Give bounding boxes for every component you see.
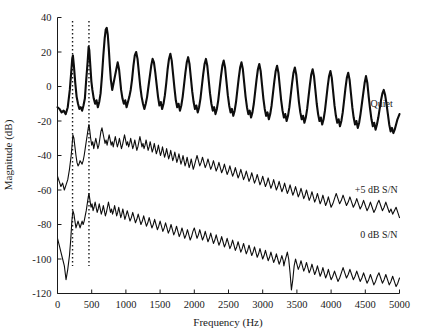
chart-canvas: 40200-20-40-60-80-100-120 05001000150020…: [0, 0, 437, 334]
trace-quiet: [58, 28, 400, 133]
trace-label-0: Quiet: [371, 98, 393, 109]
x-axis-ticks: 0500100015002000250030003500400045005000: [55, 290, 410, 310]
y-tick-label: -60: [38, 185, 52, 196]
trace-label-1: +5 dB S/N: [355, 184, 398, 195]
x-tick-label: 2500: [218, 299, 239, 310]
x-tick-label: 1500: [150, 299, 171, 310]
trace-label-2: 0 dB S/N: [360, 229, 397, 240]
y-tick-label: -100: [32, 254, 51, 265]
x-tick-label: 3000: [252, 299, 273, 310]
x-tick-label: 1000: [115, 299, 136, 310]
y-tick-label: 0: [46, 81, 51, 92]
trace-labels: Quiet+5 dB S/N0 dB S/N: [355, 98, 398, 240]
trace-0-db-s-n: [58, 193, 400, 290]
y-tick-label: -40: [38, 150, 52, 161]
x-axis-title: Frequency (Hz): [193, 316, 263, 329]
y-tick-label: 20: [41, 47, 52, 58]
spectral-magnitude-chart: 40200-20-40-60-80-100-120 05001000150020…: [0, 0, 437, 334]
y-axis-title: Magnitude (dB): [2, 119, 15, 190]
x-tick-label: 4500: [355, 299, 376, 310]
x-tick-label: 2000: [184, 299, 205, 310]
y-tick-label: -20: [38, 116, 52, 127]
x-tick-label: 5000: [389, 299, 410, 310]
spectrum-traces: [58, 28, 400, 290]
x-tick-label: 3500: [286, 299, 307, 310]
x-tick-label: 500: [84, 299, 100, 310]
x-tick-label: 4000: [321, 299, 342, 310]
x-tick-label: 0: [55, 299, 60, 310]
y-tick-label: -120: [32, 288, 51, 299]
y-tick-label: -80: [38, 219, 52, 230]
y-tick-label: 40: [41, 12, 52, 23]
